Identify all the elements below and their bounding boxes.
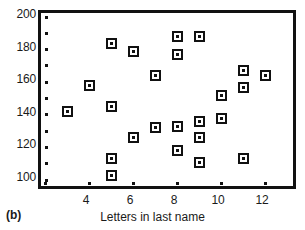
data-point xyxy=(238,65,249,76)
x-axis-tick-dot xyxy=(220,182,223,185)
y-axis-tick-dot xyxy=(45,48,48,51)
x-axis-title: Letters in last name xyxy=(0,210,305,224)
x-axis-tick-dot xyxy=(264,182,267,185)
y-axis-tick-dot xyxy=(45,16,48,19)
x-axis-tick-label: 4 xyxy=(74,194,98,206)
y-axis-tick-dot xyxy=(45,113,48,116)
data-point xyxy=(216,113,227,124)
y-axis-tick-dot xyxy=(45,162,48,165)
plot-frame xyxy=(38,10,296,189)
data-point xyxy=(106,101,117,112)
y-axis-tick-dot xyxy=(45,32,48,35)
x-axis-tick-dot xyxy=(132,182,135,185)
y-axis-tick-label: 100 xyxy=(2,171,36,183)
data-point xyxy=(238,153,249,164)
data-point xyxy=(238,82,249,93)
y-axis-tick-label: 120 xyxy=(2,138,36,150)
y-axis-tick-dot xyxy=(45,97,48,100)
y-axis-tick-dot xyxy=(45,146,48,149)
x-axis-tick-label: 6 xyxy=(118,194,142,206)
data-point xyxy=(194,157,205,168)
y-axis-tick-label: 200 xyxy=(2,8,36,20)
data-point xyxy=(172,145,183,156)
data-point xyxy=(150,70,161,81)
y-axis-tick-dot xyxy=(45,81,48,84)
data-point xyxy=(84,80,95,91)
data-point xyxy=(216,90,227,101)
x-axis-tick-label: 12 xyxy=(250,194,274,206)
data-point xyxy=(194,116,205,127)
scatter-plot-figure: 100120140160180200 4681012 Letters in la… xyxy=(0,0,305,230)
data-point xyxy=(172,121,183,132)
y-axis-tick-dot xyxy=(45,130,48,133)
data-point xyxy=(106,153,117,164)
plot-area xyxy=(41,13,293,186)
x-axis-tick-labels: 4681012 xyxy=(0,194,305,210)
x-axis-tick-dot xyxy=(44,182,47,185)
y-axis-tick-label: 160 xyxy=(2,73,36,85)
panel-label: (b) xyxy=(6,208,21,222)
x-axis-tick-label: 10 xyxy=(206,194,230,206)
data-point xyxy=(194,31,205,42)
y-axis-tick-label: 140 xyxy=(2,106,36,118)
x-axis-tick-label: 8 xyxy=(162,194,186,206)
x-axis-tick-dot xyxy=(176,182,179,185)
y-axis-tick-label: 180 xyxy=(2,41,36,53)
data-point xyxy=(128,132,139,143)
data-point xyxy=(106,170,117,181)
data-point xyxy=(172,31,183,42)
data-point xyxy=(260,70,271,81)
data-point xyxy=(106,38,117,49)
data-point xyxy=(150,122,161,133)
x-axis-tick-dot xyxy=(88,182,91,185)
data-point xyxy=(194,132,205,143)
data-point xyxy=(62,106,73,117)
data-point xyxy=(128,46,139,57)
data-point xyxy=(172,49,183,60)
y-axis-tick-dot xyxy=(45,64,48,67)
